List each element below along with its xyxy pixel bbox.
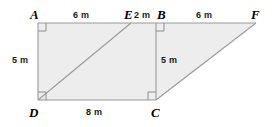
measure-label-dc: 8 m (86, 108, 102, 117)
rectangle-abcd-fill (38, 23, 156, 100)
vertex-label-e: E (124, 8, 133, 21)
measure-label-eb: 2 m (134, 11, 150, 20)
vertex-label-a: A (30, 8, 39, 21)
vertex-label-b: B (157, 8, 166, 21)
measure-label-ae: 6 m (73, 11, 89, 20)
vertex-label-c: C (151, 106, 160, 119)
vertex-label-f: F (251, 8, 260, 21)
measure-label-bc: 5 m (161, 56, 177, 65)
measure-label-bf: 6 m (196, 11, 212, 20)
vertex-label-d: D (29, 106, 38, 119)
geometry-figure: A E B F D C 6 m 2 m 6 m 5 m 5 m 8 m (0, 0, 273, 127)
measure-label-ad: 5 m (12, 56, 28, 65)
